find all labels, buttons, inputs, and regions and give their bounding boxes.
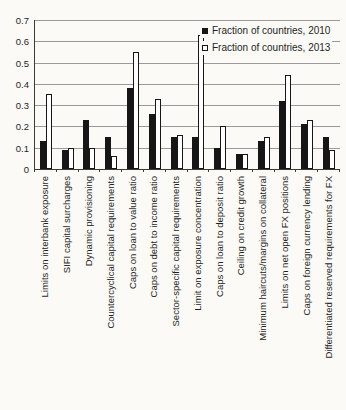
x-axis-label: Caps on foreign currency lending <box>301 176 312 315</box>
bar-2013 <box>307 120 313 169</box>
y-axis-tick-label: 0.4 <box>0 79 29 90</box>
y-axis-tick-label: 0.7 <box>0 15 29 26</box>
legend-entry-2010: Fraction of countries, 2010 <box>200 24 332 38</box>
x-axis-label: Limit on exposure concentration <box>192 176 203 311</box>
x-axis-tick <box>339 169 340 172</box>
bar-group <box>144 20 166 169</box>
x-axis-label: Ceiling on credit growth <box>235 176 246 275</box>
x-axis-label: SIFI capital surcharges <box>61 176 72 273</box>
x-axis-label: Minimum haircuts/margins on collateral <box>257 176 268 341</box>
bar-2013 <box>329 150 335 169</box>
bar-group <box>100 20 122 169</box>
x-axis-label: Caps on loan to value ratio <box>127 176 138 289</box>
bar-group <box>122 20 144 169</box>
x-axis-tick <box>230 169 231 172</box>
x-axis-label: Countercyclical capital requirements <box>105 176 116 329</box>
bar-2013 <box>285 75 291 169</box>
y-axis-tick-label: 0.1 <box>0 143 29 154</box>
x-axis-tick <box>99 169 100 172</box>
x-axis-label: Differentiated reserved requirements for… <box>323 176 334 359</box>
x-axis-label: Caps on debt to income ratio <box>148 176 159 297</box>
bar-2013 <box>89 148 95 169</box>
bar-2013 <box>155 99 161 169</box>
bar-2013 <box>264 137 270 169</box>
legend-swatch-2010 <box>202 28 208 34</box>
y-axis-tick-label: 0.3 <box>0 100 29 111</box>
legend: Fraction of countries, 2010 Fraction of … <box>200 24 332 55</box>
x-axis-label: Limits on net open FX positions <box>279 176 290 309</box>
bar-2013 <box>242 154 248 169</box>
x-axis-tick <box>34 169 35 172</box>
bar-2013 <box>68 148 74 169</box>
bar-group <box>35 20 57 169</box>
bar-2013 <box>177 135 183 169</box>
x-axis-tick <box>78 169 79 172</box>
x-axis-tick <box>208 169 209 172</box>
x-axis-tick <box>143 169 144 172</box>
bar-2013 <box>133 52 139 169</box>
y-axis-tick-label: 0.5 <box>0 58 29 69</box>
bar-group <box>166 20 188 169</box>
x-axis-tick <box>121 169 122 172</box>
legend-label-2013: Fraction of countries, 2013 <box>212 42 330 54</box>
legend-label-2010: Fraction of countries, 2010 <box>212 25 330 37</box>
y-axis-tick-label: 0.6 <box>0 36 29 47</box>
legend-swatch-2013 <box>202 45 208 51</box>
y-axis-tick-label: 0.2 <box>0 121 29 132</box>
x-axis-label: Caps on loan to deposit ratio <box>214 176 225 297</box>
x-axis-tick <box>187 169 188 172</box>
bar-2013 <box>198 35 204 169</box>
x-axis-tick <box>165 169 166 172</box>
bar-2013 <box>111 156 117 169</box>
y-axis-tick-label: 0 <box>0 164 29 175</box>
x-axis-tick <box>317 169 318 172</box>
legend-entry-2013: Fraction of countries, 2013 <box>200 41 332 55</box>
bar-2013 <box>46 94 52 169</box>
bar-chart-figure: 0.70.60.50.40.30.20.10 Limits on interba… <box>0 0 346 410</box>
x-axis-tick <box>295 169 296 172</box>
x-axis-tick <box>56 169 57 172</box>
x-axis-tick <box>274 169 275 172</box>
x-axis-tick <box>252 169 253 172</box>
bar-2013 <box>220 126 226 169</box>
x-axis-label: Dynamic provisioning <box>83 176 94 266</box>
x-axis-label: Sector-specific capital requirements <box>170 176 181 326</box>
x-axis-label: Limits on interbank exposure <box>39 176 50 297</box>
bar-group <box>79 20 101 169</box>
bar-group <box>57 20 79 169</box>
